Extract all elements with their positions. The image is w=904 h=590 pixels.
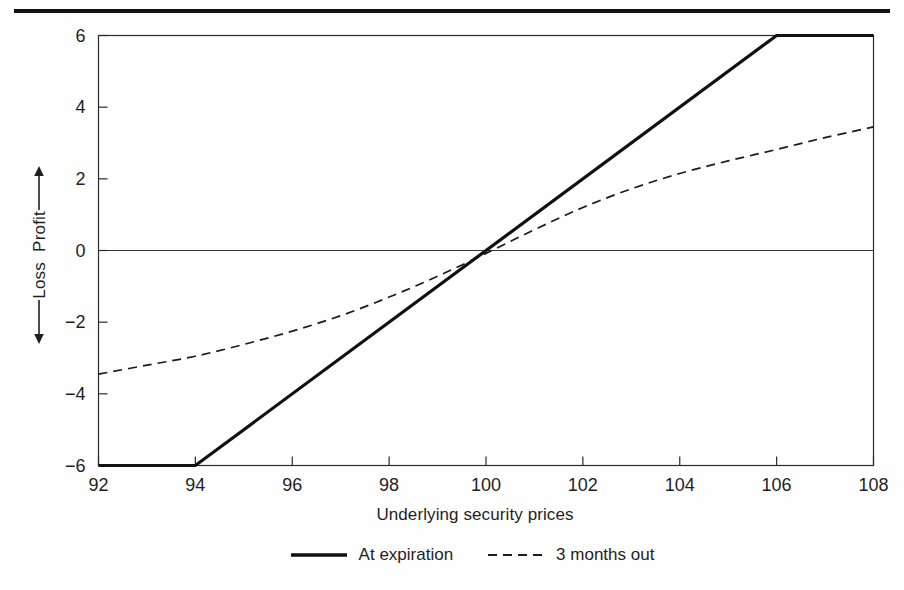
legend-label-at-expiration: At expiration [359,545,454,565]
y-tick-label: 2 [75,169,85,189]
down-arrow-icon [31,299,47,345]
dashed-line-swatch-icon [487,549,545,561]
y-tick-label: 0 [75,241,85,261]
y-axis-loss-group: Loss [31,262,48,345]
x-axis-title-wrap: Underlying security prices [0,505,904,525]
y-axis-profit-text: Profit [31,211,48,252]
up-arrow-icon [31,165,47,211]
figure-root: −6−4−20246 92949698100102104106108 Profi… [0,0,904,590]
x-tick-label: 108 [858,475,888,495]
y-tick-label: −6 [65,456,86,476]
payoff-chart: −6−4−20246 92949698100102104106108 [0,0,904,590]
y-axis-profit-group: Profit [31,165,48,252]
y-tick-label: −2 [65,312,86,332]
x-axis-ticks: 92949698100102104106108 [88,457,888,495]
chart-legend: At expiration 3 months out [0,545,904,565]
solid-line-swatch-icon [290,549,348,561]
x-tick-label: 104 [665,475,695,495]
legend-item-at-expiration: At expiration [290,545,454,565]
x-tick-label: 94 [185,475,205,495]
legend-item-3-months-out: 3 months out [487,545,654,565]
legend-label-3-months-out: 3 months out [556,545,654,565]
x-tick-label: 96 [282,475,302,495]
y-axis-loss-text: Loss [31,262,48,299]
y-tick-label: 6 [75,26,85,46]
x-tick-label: 98 [379,475,399,495]
y-tick-label: −4 [65,384,86,404]
y-tick-label: 4 [75,97,85,117]
x-tick-label: 92 [88,475,108,495]
y-axis-label: Profit Loss [16,120,62,390]
y-axis-ticks: −6−4−20246 [65,26,108,476]
x-axis-title: Underlying security prices [330,505,573,524]
x-tick-label: 100 [471,475,501,495]
x-tick-label: 102 [568,475,598,495]
x-tick-label: 106 [762,475,792,495]
